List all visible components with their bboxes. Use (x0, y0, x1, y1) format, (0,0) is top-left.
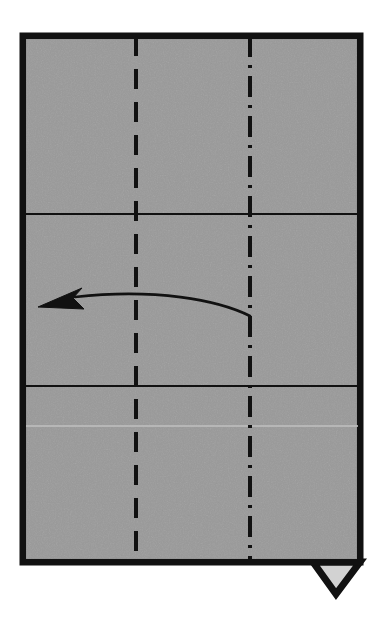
origami-figure: Rectangular sheet of paper shown front s… (0, 0, 383, 618)
origami-diagram-canvas (0, 0, 383, 618)
